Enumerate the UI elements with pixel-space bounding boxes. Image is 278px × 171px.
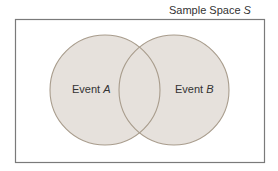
event-b-label: Event B xyxy=(175,83,214,95)
sample-space-label: Sample Space S xyxy=(169,4,252,16)
event-a-label: Event A xyxy=(72,83,111,95)
venn-diagram: Sample Space S Event A Event B xyxy=(0,0,278,171)
